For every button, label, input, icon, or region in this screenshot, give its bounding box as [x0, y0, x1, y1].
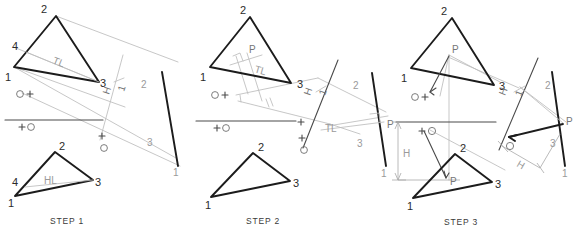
- fold-line-h1-step1: [100, 55, 123, 140]
- right-angle-mark-step2: [233, 53, 243, 61]
- fold-line-h1-step2: [303, 60, 338, 148]
- fold-tick-step1: [114, 78, 124, 82]
- aux-p-label-step2: P: [387, 119, 394, 130]
- step-caption-1: STEP 1: [50, 216, 84, 226]
- edge-view-line-step2: [372, 73, 386, 166]
- aux-vertex-label-2-step3: 2: [545, 80, 551, 91]
- fold-label-h-step3: H: [497, 86, 510, 97]
- front-vertex-label-4-step1: 4: [12, 176, 18, 188]
- h-label-front-step3: H: [403, 148, 410, 159]
- vertex-label-1-step2: 1: [200, 71, 206, 83]
- aux-vertex-label-2-step1: 2: [141, 79, 147, 90]
- construction-lines-step1: [14, 16, 180, 166]
- vertex-label-2-step3: 2: [441, 5, 447, 17]
- front-vertex-label-3-step1: 3: [95, 176, 101, 188]
- front-vertex-label-3-step2: 3: [293, 177, 299, 189]
- panel-step-1: 2 4 1 3 TL H 1 2 3 1 2 4 1 3 HL STEP 1: [5, 3, 180, 226]
- fold-label-1-step1: 1: [115, 84, 127, 93]
- front-vertex-label-2-step3: 2: [460, 142, 466, 154]
- front-vertex-label-2-step2: 2: [258, 141, 264, 153]
- h-label-aux-step3: H: [515, 158, 527, 171]
- vertex-label-1-step3: 1: [401, 72, 407, 84]
- front-vertex-label-1-step1: 1: [8, 197, 14, 209]
- vertex-label-1-step1: 1: [5, 71, 11, 83]
- panel-step-3: 2 1 3 P H 1 2 3 1 P H H 2 1 3 P STEP 3: [392, 5, 573, 227]
- fold-line-h1-step3: [499, 58, 538, 150]
- aux-vertex-label-1-step3: 1: [562, 168, 568, 179]
- panel-step-2: 2 1 3 P TL H 1 2 3 1 P TL 2 1 3 STEP 2: [196, 4, 394, 226]
- aux-p-label-step3: P: [566, 116, 573, 127]
- step-caption-2: STEP 2: [246, 216, 280, 226]
- fold-label-h-step2: H: [302, 86, 315, 97]
- frontal-view-triangle-step2: [211, 153, 290, 197]
- horizontal-view-triangle-step1: [14, 16, 99, 82]
- tl-label-aux-step2: TL: [325, 123, 337, 134]
- front-vertex-label-1-step2: 1: [205, 199, 211, 211]
- vertex-label-2-step1: 2: [41, 3, 47, 15]
- hl-label-step1: HL: [44, 175, 57, 186]
- parallel-tick-marks-step2: [266, 98, 273, 107]
- front-vertex-label-2-step1: 2: [59, 140, 65, 152]
- vertex-label-2-step2: 2: [240, 4, 246, 16]
- front-p-label-step3: P: [450, 176, 457, 187]
- drawing-sheet: 2 4 1 3 TL H 1 2 3 1 2 4 1 3 HL STEP 1: [0, 0, 581, 236]
- aux-vertex-label-3-step2: 3: [357, 138, 363, 149]
- frontal-view-triangle-step1: [15, 152, 93, 196]
- construction-lines-step3: [430, 55, 566, 180]
- aux-vertex-label-3-step1: 3: [147, 137, 153, 148]
- aux-vertex-label-2-step2: 2: [353, 80, 359, 91]
- engineering-drawing: 2 4 1 3 TL H 1 2 3 1 2 4 1 3 HL STEP 1: [0, 0, 581, 236]
- step-caption-3: STEP 3: [444, 217, 478, 227]
- aux-vertex-label-1-step2: 1: [381, 168, 387, 179]
- front-vertex-label-3-step3: 3: [495, 178, 501, 190]
- vertex-label-4-step1: 4: [12, 40, 18, 52]
- tl-label-step1: TL: [51, 55, 66, 70]
- fold-label-h-step1: H: [100, 85, 113, 95]
- p-label-step3: P: [452, 44, 459, 55]
- front-vertex-label-1-step3: 1: [407, 200, 413, 212]
- vertex-label-3-step2: 3: [297, 78, 303, 90]
- p-label-step2: P: [249, 44, 256, 55]
- aux-vertex-label-3-step3: 3: [550, 138, 556, 149]
- aux-vertex-label-1-step1: 1: [173, 167, 179, 178]
